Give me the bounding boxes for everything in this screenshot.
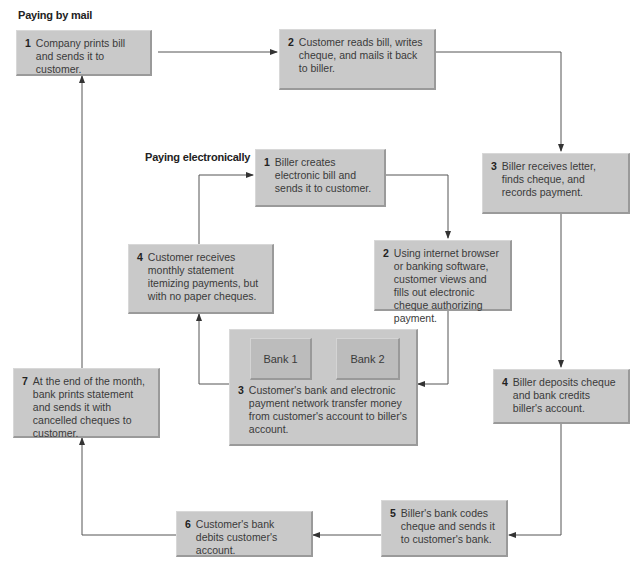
step-number: 4 xyxy=(502,376,508,415)
step-number: 2 xyxy=(383,247,389,325)
step-text: Biller's bank codes cheque and sends it … xyxy=(401,507,498,546)
step-number: 7 xyxy=(22,375,28,440)
step-text: Customer reads bill, writes cheque, and … xyxy=(299,36,426,75)
bank-2: Bank 2 xyxy=(336,338,400,380)
mail-step-4: 4Biller deposits cheque and bank credits… xyxy=(493,369,630,424)
step-number: 3 xyxy=(238,384,244,436)
mail-step-7: 7At the end of the month, bank prints st… xyxy=(13,368,160,438)
step-number: 1 xyxy=(264,156,270,195)
step-text: Biller creates electronic bill and sends… xyxy=(275,156,376,195)
step-text: Biller deposits cheque and bank credits … xyxy=(513,376,620,415)
mail-step-5: 5Biller's bank codes cheque and sends it… xyxy=(381,500,508,557)
step-text: Customer receives monthly statement item… xyxy=(148,251,264,303)
step-number: 2 xyxy=(288,36,294,75)
step-text: Company prints bill and sends it to cust… xyxy=(36,37,142,76)
step-number: 6 xyxy=(185,518,191,557)
electronic-step-4: 4Customer receives monthly statement ite… xyxy=(128,244,274,314)
electronic-step-1: 1Biller creates electronic bill and send… xyxy=(255,149,386,207)
step-text: At the end of the month, bank prints sta… xyxy=(33,375,150,440)
step-text: Customer's bank debits customer's accoun… xyxy=(196,518,303,557)
heading-paying-electronically: Paying electronically xyxy=(145,151,250,163)
mail-step-2: 2Customer reads bill, writes cheque, and… xyxy=(279,29,436,90)
electronic-step-2: 2Using internet browser or banking softw… xyxy=(374,240,512,311)
step-text: Biller receives letter, finds cheque, an… xyxy=(502,160,620,199)
heading-paying-by-mail: Paying by mail xyxy=(18,9,92,21)
step-number: 1 xyxy=(25,37,31,76)
bank-1: Bank 1 xyxy=(250,338,312,380)
mail-step-1: 1Company prints bill and sends it to cus… xyxy=(16,30,152,76)
step-number: 3 xyxy=(491,160,497,199)
step-number: 4 xyxy=(137,251,143,303)
step-number: 5 xyxy=(390,507,396,546)
step-text: Customer's bank and electronic payment n… xyxy=(249,384,408,436)
mail-step-3: 3Biller receives letter, finds cheque, a… xyxy=(482,153,630,214)
mail-step-6: 6Customer's bank debits customer's accou… xyxy=(176,511,313,557)
step-text: Using internet browser or banking softwa… xyxy=(394,247,502,325)
